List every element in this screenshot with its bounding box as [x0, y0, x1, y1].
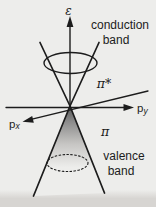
px-axis-label-sub: x [14, 121, 20, 131]
conduction-band-label-line1: conduction [91, 18, 149, 32]
conduction-band-label-line2: band [103, 33, 130, 47]
valence-band-label-line2: band [108, 164, 135, 178]
band-structure-diagram: ε conduction band π* π px py valence ban… [0, 0, 156, 207]
valence-band-label-line1: valence [103, 149, 145, 163]
pi-star-label: π* [96, 76, 112, 91]
energy-axis-label: ε [65, 4, 71, 18]
py-axis-label-sub: y [142, 106, 148, 116]
pi-label: π [100, 124, 110, 139]
band-structure-figure: ε conduction band π* π px py valence ban… [0, 0, 156, 207]
